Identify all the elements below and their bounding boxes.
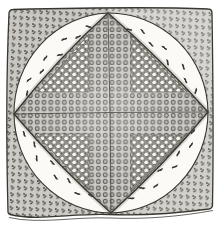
engraving-figure: Pieced quilt block: circle-and-diamond p… [0,0,218,231]
quilt-patches [2,2,216,226]
quilt-illustration: Pieced quilt block: circle-and-diamond p… [0,0,218,231]
